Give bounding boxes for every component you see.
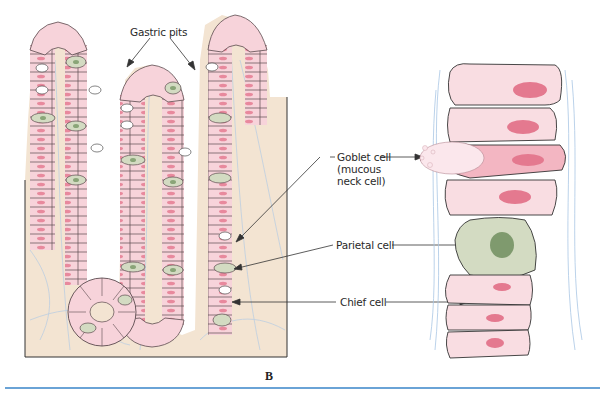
gastric-mucosa-diagram	[0, 0, 603, 399]
label-gastric-pits: Gastric pits	[130, 26, 187, 38]
label-chief-cell: Chief cell	[340, 296, 386, 308]
gland-left	[30, 22, 103, 285]
label-goblet-cell-line2: (mucous	[337, 163, 381, 175]
bottom-rule	[5, 387, 600, 389]
panel-letter: B	[265, 369, 273, 384]
gland-cross-section	[68, 278, 136, 346]
label-goblet-cell: Goblet cell	[337, 151, 391, 163]
tissue-block	[25, 15, 287, 357]
label-goblet-cell-line3: neck cell)	[337, 175, 385, 187]
label-parietal-cell: Parietal cell	[336, 239, 394, 251]
cell-column	[420, 64, 582, 358]
